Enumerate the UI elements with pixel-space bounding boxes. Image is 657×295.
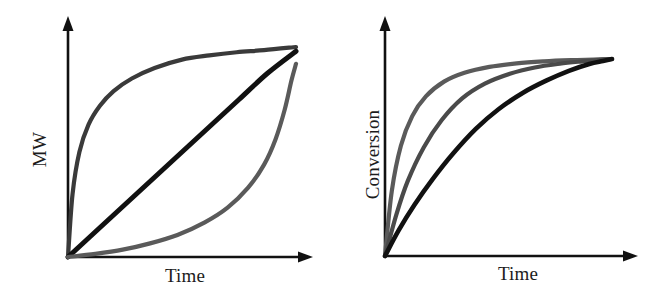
curve-medium-rate [385, 59, 612, 256]
y-axis-arrowhead-icon [63, 16, 74, 31]
figure-container: MW Time Conversion Time [0, 0, 657, 295]
x-axis-arrowhead-icon [623, 251, 638, 262]
plot-panel-mw-vs-time: MW Time [0, 0, 330, 295]
y-axis-label-mw: MW [30, 105, 49, 195]
curves-group-left [68, 47, 296, 257]
curve-linear [68, 51, 296, 257]
x-axis-arrowhead-icon [298, 252, 313, 263]
curves-group-right [385, 59, 612, 256]
axes-group-right [380, 16, 639, 262]
x-axis-label-time: Time [135, 266, 235, 285]
x-axis-label-time: Time [468, 264, 568, 283]
y-axis-arrowhead-icon [380, 16, 391, 31]
mw-plot-svg [0, 0, 330, 295]
y-axis-label-conversion: Conversion [363, 95, 382, 215]
plot-panel-conversion-vs-time: Conversion Time [330, 0, 657, 295]
